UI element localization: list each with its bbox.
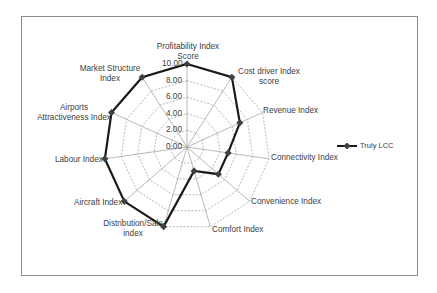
label-revenue: Revenue Index (263, 106, 318, 116)
data-point-marker (225, 149, 232, 156)
data-point-marker (236, 119, 243, 126)
label-connectivity: Connectivity Index (271, 153, 338, 163)
label-aircraft: Aircraft Index (74, 198, 122, 208)
label-convenience: Convenience Index (251, 197, 321, 207)
label-comfort: Comfort Index (212, 225, 263, 235)
tick-2: 2.00 (166, 125, 182, 134)
legend: Truly LCC (337, 141, 393, 150)
label-airports: AirportsAttractiveness Index (36, 103, 112, 123)
legend-label: Truly LCC (360, 141, 393, 150)
legend-line-icon (337, 143, 357, 149)
tick-8: 8.00 (166, 76, 182, 85)
tick-4: 4.00 (166, 109, 182, 118)
label-market-structure: Market StructureIndex (78, 64, 142, 84)
label-profitability: Profitability IndexScore (155, 42, 221, 62)
tick-0: 0.00 (166, 142, 182, 151)
tick-6: 6.00 (166, 92, 182, 101)
label-cost-driver: Cost driver Indexscore (233, 67, 305, 87)
label-distribution: Distribution/Saleindex (100, 219, 166, 239)
label-labour: Labour Index (55, 155, 103, 165)
